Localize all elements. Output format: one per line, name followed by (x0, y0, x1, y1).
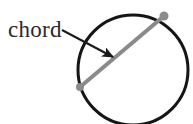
chord-endpoint-lower-left (76, 83, 84, 91)
circle-outline (78, 15, 188, 124)
chord-pointer-arrow (62, 30, 113, 57)
chord-label: chord (8, 17, 62, 42)
chord-segment (80, 16, 164, 87)
chord-endpoint-upper-right (160, 12, 169, 21)
chord-diagram-figure: chord (0, 0, 193, 124)
